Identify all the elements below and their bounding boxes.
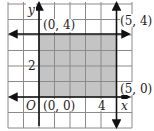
- vertex-label-0-0: (0, 0): [43, 99, 75, 113]
- x-tick-4-label: 4: [98, 99, 106, 113]
- y-tick-2-label: 2: [28, 59, 36, 73]
- vertex-label-0-4: (0, 4): [43, 18, 75, 32]
- x-axis-label: x: [121, 99, 128, 113]
- origin-label: O: [26, 99, 36, 113]
- coordinate-graph: y x O 2 4 (0, 4) (5, 4) (5, 0) (0, 0): [0, 0, 154, 131]
- vertex-label-5-4: (5, 4): [120, 14, 152, 28]
- y-axis-label: y: [27, 3, 35, 17]
- vertex-label-5-0: (5, 0): [120, 82, 152, 96]
